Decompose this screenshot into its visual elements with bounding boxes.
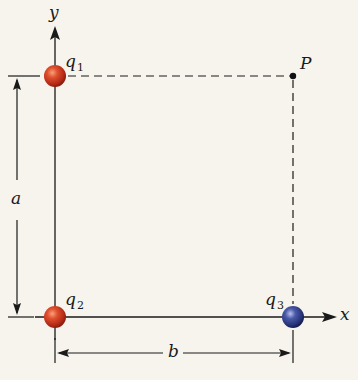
dimension-a-label: a	[11, 190, 21, 207]
charge-q1-symbol: q	[65, 51, 76, 71]
charge-q2-subscript: 2	[77, 299, 84, 312]
dimension-b-label: b	[168, 343, 179, 360]
point-p-dot	[290, 73, 296, 79]
charge-q3-symbol: q	[265, 289, 276, 309]
charge-diagram: y x q1 q2 q3 P a b	[0, 0, 358, 380]
charge-q2-symbol: q	[65, 289, 76, 309]
point-p-label: P	[300, 55, 311, 72]
charge-q1-label: q1	[65, 53, 84, 73]
charge-q3-subscript: 3	[277, 299, 284, 312]
charge-q2-label: q2	[65, 291, 84, 311]
x-axis-label: x	[340, 306, 350, 323]
charge-q1-subscript: 1	[77, 61, 84, 74]
charge-q2-sphere	[44, 306, 66, 328]
charge-q3-sphere	[282, 306, 304, 328]
charge-q3-label: q3	[265, 291, 284, 311]
charge-q1-sphere	[44, 65, 66, 87]
y-axis-label: y	[49, 4, 59, 21]
